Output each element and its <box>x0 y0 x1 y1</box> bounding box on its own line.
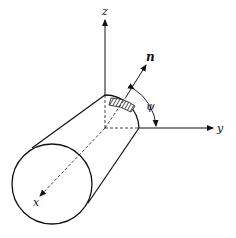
angle-label: ψ <box>146 100 155 113</box>
cylinder-diagram: z y x n ψ <box>0 0 236 238</box>
z-axis-label: z <box>101 5 108 18</box>
x-axis-label: x <box>33 196 40 209</box>
cylinder-top-edge <box>32 95 105 148</box>
x-axis <box>40 128 105 196</box>
cylinder-bottom-edge <box>88 128 139 203</box>
normal-vector <box>126 65 146 97</box>
surface-element <box>109 98 135 112</box>
y-axis-label: y <box>216 122 224 135</box>
normal-label: n <box>146 50 155 64</box>
